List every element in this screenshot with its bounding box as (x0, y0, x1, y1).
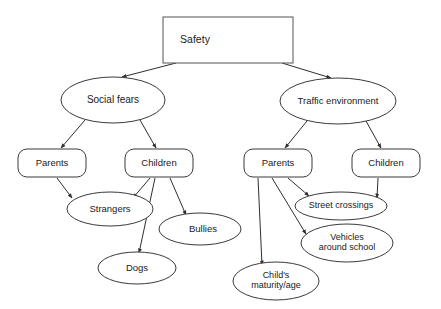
node-label-traffic_environment: Traffic environment (298, 95, 379, 106)
edge-traffic_parents-childs_maturity (258, 178, 262, 265)
node-street_crossings[interactable]: Street crossings (295, 192, 387, 220)
concept-map-svg: SafetySocial fearsTraffic environmentPar… (0, 0, 441, 309)
node-label-social_children: Children (141, 157, 176, 168)
edge-social_fears-social_parents (61, 120, 85, 148)
node-traffic_environment[interactable]: Traffic environment (280, 78, 396, 124)
node-social_children[interactable]: Children (125, 149, 193, 177)
node-label-traffic_parents: Parents (262, 157, 295, 168)
edge-safety-social_fears (122, 63, 176, 77)
node-traffic_children[interactable]: Children (352, 149, 420, 177)
node-label-bullies: Bullies (189, 223, 217, 234)
node-label-street_crossings: Street crossings (309, 200, 374, 210)
edge-traffic_environment-traffic_children (366, 121, 381, 148)
node-label-traffic_children: Children (368, 157, 403, 168)
edge-traffic_environment-traffic_parents (285, 121, 307, 148)
node-social_parents[interactable]: Parents (18, 149, 86, 177)
node-safety[interactable]: Safety (163, 17, 293, 63)
node-label-social_fears: Social fears (87, 94, 139, 105)
node-strangers[interactable]: Strangers (67, 192, 153, 226)
edge-traffic_children-street_crossings (377, 178, 378, 198)
node-childs_maturity_age[interactable]: Child'smaturity/age (233, 262, 319, 300)
node-vehicles_around_school[interactable]: Vehiclesaround school (301, 224, 393, 262)
edge-traffic_parents-street_crossings (288, 178, 309, 196)
node-dogs[interactable]: Dogs (98, 252, 176, 284)
edge-social_fears-social_children (140, 120, 156, 148)
nodes-layer: SafetySocial fearsTraffic environmentPar… (18, 17, 420, 300)
node-label-dogs: Dogs (126, 262, 148, 273)
node-traffic_parents[interactable]: Parents (244, 149, 312, 177)
node-label-social_parents: Parents (36, 157, 69, 168)
node-label-strangers: Strangers (89, 203, 130, 214)
edge-social_parents-strangers (57, 178, 72, 198)
node-label-safety: Safety (180, 33, 211, 45)
edge-safety-traffic_environment (282, 63, 331, 78)
node-social_fears[interactable]: Social fears (61, 77, 165, 123)
diagram-canvas: SafetySocial fearsTraffic environmentPar… (0, 0, 441, 309)
node-bullies[interactable]: Bullies (159, 213, 241, 245)
edge-social_children-bullies (170, 178, 186, 215)
